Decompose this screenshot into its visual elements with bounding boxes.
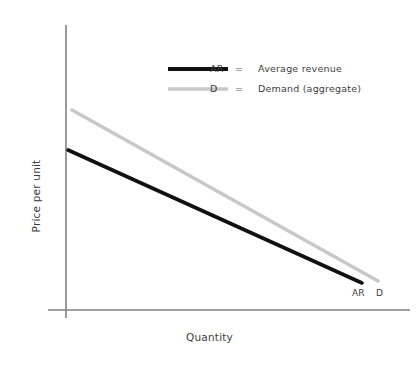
plot-area	[0, 0, 419, 370]
endpoint-label-ar: AR	[352, 288, 365, 298]
legend-key-ar: AR	[210, 63, 224, 74]
average-revenue-line	[68, 150, 362, 283]
legend-description-d: Demand (aggregate)	[258, 83, 361, 94]
legend-equals-d: =	[235, 83, 243, 94]
y-axis-title: Price per unit	[30, 141, 42, 251]
legend-equals-ar: =	[235, 63, 243, 74]
x-axis-title: Quantity	[0, 331, 419, 343]
economics-diagram: AR = Average revenue D = Demand (aggrega…	[0, 0, 419, 370]
legend-key-d: D	[210, 83, 218, 94]
demand-line	[72, 110, 378, 281]
endpoint-label-d: D	[376, 288, 383, 298]
legend-description-ar: Average revenue	[258, 63, 342, 74]
